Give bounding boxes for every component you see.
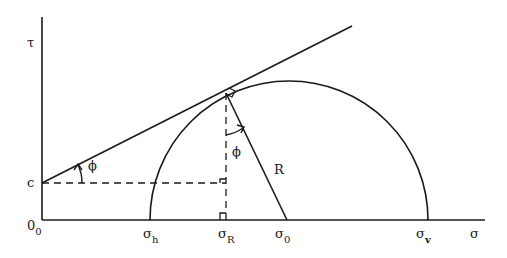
right-angle-marker-axis [220, 213, 226, 220]
sigma-h-main: σ [143, 226, 152, 241]
origin-label: 00 [27, 219, 42, 232]
phi-arc-envelope-arrowhead [74, 164, 82, 170]
tau-axis-label: τ [27, 36, 34, 49]
sigma-h-sub: h [152, 234, 158, 245]
sigma-r-label: σR [218, 227, 234, 240]
radius-label: R [274, 163, 284, 176]
sigma-r-main: σ [218, 226, 227, 241]
sigma-v-main: σ [416, 226, 425, 241]
phi-label-envelope: ϕ [88, 159, 97, 172]
origin-sub: 0 [35, 226, 41, 237]
sigma-v-label: σv [416, 227, 431, 240]
sigma-r-sub: R [227, 234, 235, 245]
phi-arc-radius [226, 128, 243, 135]
sigma-0-main: σ [275, 226, 284, 241]
phi-label-radius: ϕ [232, 145, 241, 158]
sigma-v-sub: v [425, 234, 431, 245]
cohesion-label: c [27, 176, 34, 189]
mohr-circle-diagram [0, 0, 507, 258]
mohr-semicircle [150, 81, 428, 220]
sigma-0-label: σ0 [275, 227, 290, 240]
sigma-axis-label: σ [470, 227, 479, 240]
sigma-h-label: σh [143, 227, 158, 240]
sigma-0-sub: 0 [284, 234, 290, 245]
